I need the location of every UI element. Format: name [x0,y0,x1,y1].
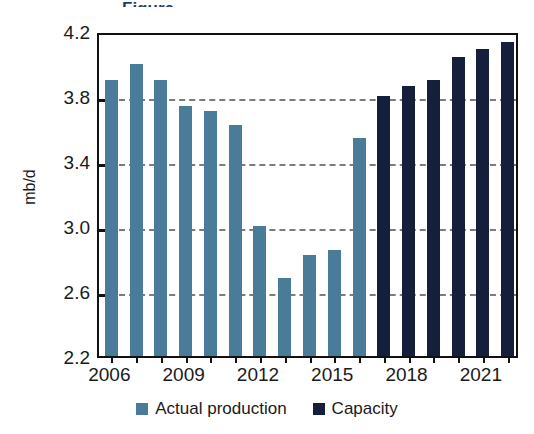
x-axis-tick-mark [235,356,237,363]
y-axis-tick-label: 2.6 [42,283,90,302]
x-axis-tick-mark [285,356,287,363]
x-axis-tick-mark [186,356,188,363]
y-axis-tick-label: 4.2 [42,23,90,42]
bar-actual-production-2010 [204,111,217,356]
x-axis-tick-label: 2021 [446,364,516,386]
bar-actual-production-2008 [154,80,167,356]
legend-swatch-icon [313,403,325,415]
bar-actual-production-2014 [303,255,316,356]
x-axis-tick-mark [508,356,510,363]
x-axis-tick-label: 2012 [223,364,293,386]
bar-actual-production-2009 [179,106,192,356]
x-axis-tick-mark [260,356,262,363]
bar-capacity-2022 [501,42,514,356]
bar-actual-production-2016 [353,138,366,356]
plot-area [97,33,518,358]
bar-actual-production-2012 [253,226,266,356]
bar-actual-production-2011 [229,125,242,356]
chart-title-fragment: Figure [122,0,242,7]
x-axis-tick-mark [458,356,460,363]
x-axis-tick-mark [433,356,435,363]
x-axis-tick-mark [483,356,485,363]
x-axis-tick-label: 2015 [297,364,367,386]
bar-chart: Figure mb/d 4.23.83.43.02.62.2 200620092… [0,0,534,434]
bar-actual-production-2015 [328,250,341,356]
x-axis-tick-label: 2006 [74,364,144,386]
bar-capacity-2018 [402,86,415,356]
x-axis-tick-mark [409,356,411,363]
x-axis-tick-mark [310,356,312,363]
y-axis-tick-label: 3.4 [42,153,90,172]
x-axis-tick-mark [111,356,113,363]
y-axis-title: mb/d [21,152,39,222]
bar-actual-production-2006 [105,80,118,356]
legend-item-actual-production: Actual production [136,400,286,417]
bar-capacity-2021 [476,49,489,356]
bar-capacity-2017 [377,96,390,356]
legend-swatch-icon [136,403,148,415]
legend-label-capacity: Capacity [332,400,398,417]
x-axis-tick-mark [359,356,361,363]
x-axis-tick-label: 2018 [372,364,442,386]
x-axis-tick-mark [210,356,212,363]
legend-label-actual-production: Actual production [155,400,286,417]
plot-inner [99,35,516,356]
x-axis-tick-mark [161,356,163,363]
x-axis-tick-label: 2009 [149,364,219,386]
bar-actual-production-2013 [278,278,291,356]
legend-item-capacity: Capacity [313,400,398,417]
x-axis-tick-mark [334,356,336,363]
chart-legend: Actual production Capacity [0,400,534,417]
bar-capacity-2019 [427,80,440,356]
x-axis-tick-mark [384,356,386,363]
y-axis-tick-label: 3.8 [42,88,90,107]
bar-capacity-2020 [452,57,465,356]
x-axis-tick-mark [136,356,138,363]
bar-actual-production-2007 [130,64,143,357]
y-axis-tick-label: 3.0 [42,218,90,237]
